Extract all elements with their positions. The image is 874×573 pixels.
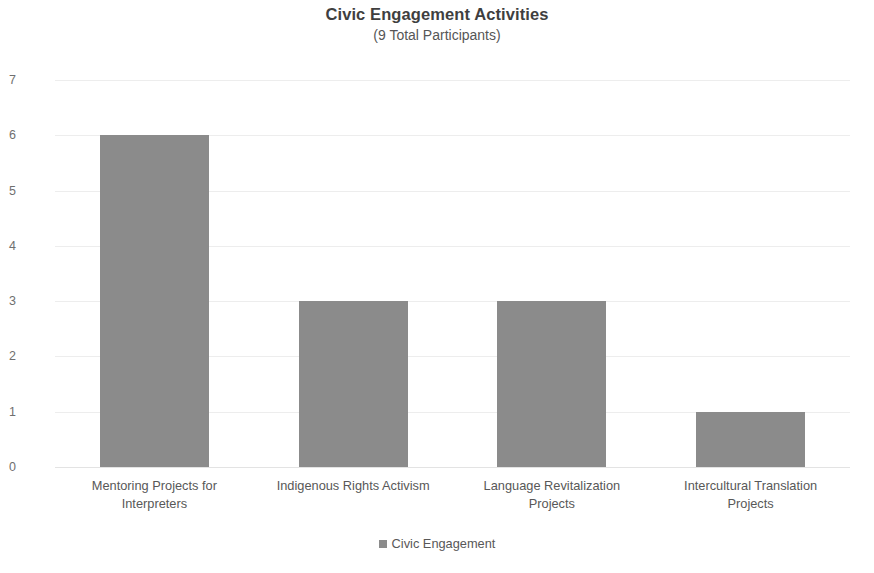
y-axis-tick-label: 4 bbox=[0, 240, 16, 252]
x-axis-category-labels: Mentoring Projects forInterpretersIndige… bbox=[55, 477, 850, 522]
bars-layer bbox=[55, 80, 850, 467]
civic-engagement-bar-chart: Civic Engagement Activities (9 Total Par… bbox=[0, 0, 874, 573]
legend-item[interactable]: Civic Engagement bbox=[379, 536, 496, 552]
x-axis-category-label-line: Language Revitalization bbox=[453, 477, 652, 495]
bar[interactable] bbox=[299, 301, 408, 467]
y-axis-tick-label: 1 bbox=[0, 406, 16, 418]
x-axis-category-label-line: Interpreters bbox=[55, 495, 254, 513]
x-axis-category-label-line: Projects bbox=[651, 495, 850, 513]
x-axis-category-label-line: Mentoring Projects for bbox=[55, 477, 254, 495]
square-marker-icon bbox=[379, 540, 387, 548]
chart-legend: Civic Engagement bbox=[0, 536, 874, 552]
plot-area bbox=[55, 80, 850, 467]
y-axis-tick-label: 5 bbox=[0, 185, 16, 197]
y-axis-tick-label: 7 bbox=[0, 74, 16, 86]
bar[interactable] bbox=[497, 301, 606, 467]
x-axis-category-label: Intercultural TranslationProjects bbox=[651, 477, 850, 513]
bar[interactable] bbox=[696, 412, 805, 467]
x-axis-category-label-line: Projects bbox=[453, 495, 652, 513]
x-axis-category-label: Indigenous Rights Activism bbox=[254, 477, 453, 495]
y-axis-tick-label: 2 bbox=[0, 350, 16, 362]
x-axis-category-label: Mentoring Projects forInterpreters bbox=[55, 477, 254, 513]
axis-baseline bbox=[55, 467, 850, 468]
x-axis-category-label: Language RevitalizationProjects bbox=[453, 477, 652, 513]
x-axis-category-label-line: Indigenous Rights Activism bbox=[254, 477, 453, 495]
y-axis-tick-label: 3 bbox=[0, 295, 16, 307]
y-axis-tick-label: 0 bbox=[0, 461, 16, 473]
legend-item-label: Civic Engagement bbox=[392, 536, 496, 552]
x-axis-category-label-line: Intercultural Translation bbox=[651, 477, 850, 495]
bar[interactable] bbox=[100, 135, 209, 467]
y-axis-tick-label: 6 bbox=[0, 129, 16, 141]
